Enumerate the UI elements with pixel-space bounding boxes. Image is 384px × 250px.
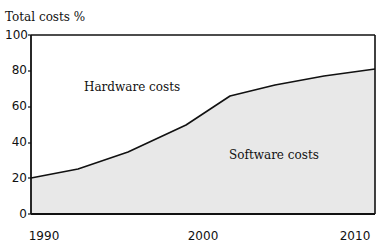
x-tick-1990: 1990 xyxy=(29,229,60,243)
chart-plot-area xyxy=(0,0,384,250)
hardware-costs-label: Hardware costs xyxy=(84,80,180,94)
x-tick-2000: 2000 xyxy=(188,229,219,243)
software-costs-area xyxy=(31,69,375,214)
software-costs-label: Software costs xyxy=(229,148,319,162)
x-tick-2010: 2010 xyxy=(340,229,371,243)
